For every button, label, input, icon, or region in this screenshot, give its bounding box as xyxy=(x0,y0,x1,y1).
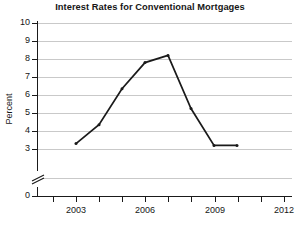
y-tick-label-3: 3 xyxy=(10,144,30,153)
x-tick-mark-minor-6 xyxy=(238,197,239,202)
plot-area xyxy=(38,22,292,196)
x-tick-mark-minor-5 xyxy=(191,197,192,202)
chart-figure: Interest Rates for Conventional Mortgage… xyxy=(0,0,300,232)
gridline-8 xyxy=(38,59,292,60)
gridline-3 xyxy=(38,149,292,150)
gridline-break xyxy=(38,178,292,179)
y-tick-label-7: 7 xyxy=(10,72,30,81)
x-tick-label-2009: 2009 xyxy=(195,205,235,215)
x-tick-mark-minor-3 xyxy=(122,197,123,202)
y-tick-label-4: 4 xyxy=(10,126,30,135)
x-tick-mark-2003 xyxy=(76,197,77,202)
gridline-6 xyxy=(38,95,292,96)
y-tick-mark-0 xyxy=(32,196,38,197)
x-tick-mark-2006 xyxy=(145,197,146,202)
y-tick-label-9: 9 xyxy=(10,36,30,45)
y-tick-mark-5 xyxy=(32,113,38,114)
y-tick-label-8: 8 xyxy=(10,54,30,63)
gridline-7 xyxy=(38,77,292,78)
x-tick-mark-2012 xyxy=(284,197,285,202)
x-tick-mark-minor-1 xyxy=(53,197,54,202)
y-tick-mark-7 xyxy=(32,77,38,78)
gridline-9 xyxy=(38,41,292,42)
y-tick-mark-4 xyxy=(32,131,38,132)
y-tick-mark-6 xyxy=(32,95,38,96)
x-tick-label-2012: 2012 xyxy=(264,205,300,215)
x-tick-mark-minor-7 xyxy=(261,197,262,202)
x-tick-label-2003: 2003 xyxy=(56,205,96,215)
y-tick-mark-10 xyxy=(32,23,38,24)
y-tick-mark-9 xyxy=(32,41,38,42)
y-tick-mark-8 xyxy=(32,59,38,60)
x-tick-mark-minor-2 xyxy=(99,197,100,202)
y-tick-label-10: 10 xyxy=(10,18,30,27)
chart-title: Interest Rates for Conventional Mortgage… xyxy=(0,2,300,12)
gridline-10 xyxy=(38,23,292,24)
y-tick-label-6: 6 xyxy=(10,90,30,99)
x-tick-mark-2009 xyxy=(215,197,216,202)
y-tick-label-5: 5 xyxy=(10,108,30,117)
x-tick-mark-minor-4 xyxy=(168,197,169,202)
gridline-5 xyxy=(38,113,292,114)
y-tick-label-0: 0 xyxy=(10,191,30,200)
axis-break-icon xyxy=(30,171,46,187)
gridline-4 xyxy=(38,131,292,132)
y-tick-mark-3 xyxy=(32,149,38,150)
x-tick-label-2006: 2006 xyxy=(125,205,165,215)
